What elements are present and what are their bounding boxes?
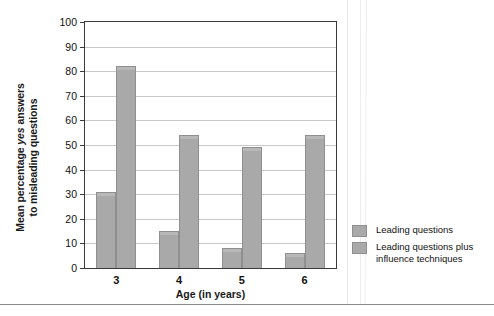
legend-label-line-1: Leading questions plus <box>376 241 473 252</box>
y-axis-tick <box>80 170 85 171</box>
x-axis-tick-label: 6 <box>302 274 308 286</box>
bar <box>285 253 305 268</box>
x-axis-tick-label: 5 <box>239 274 245 286</box>
legend-item: Leading questions <box>352 224 490 237</box>
y-axis-tick-label: 40 <box>65 164 77 176</box>
x-axis-title: Age (in years) <box>84 288 337 300</box>
bar <box>222 248 242 268</box>
y-axis-title-line-2: to misleading questions <box>26 99 38 217</box>
x-axis-tick-label: 3 <box>113 274 119 286</box>
page-divider-rule <box>0 304 494 305</box>
y-axis-tick <box>80 22 85 23</box>
y-axis-tick <box>80 120 85 121</box>
y-axis-tick-label: 70 <box>65 90 77 102</box>
y-axis-tick <box>80 243 85 244</box>
bar <box>179 135 199 268</box>
plot-area: 0102030405060708090100 3456 <box>84 21 337 269</box>
bar <box>159 231 179 268</box>
gridline <box>85 47 336 48</box>
y-axis-tick-label: 100 <box>59 16 77 28</box>
y-axis-tick <box>80 96 85 97</box>
y-axis-tick <box>80 145 85 146</box>
legend: Leading questions Leading questions plus… <box>352 224 490 268</box>
y-axis-tick-label: 0 <box>71 262 77 274</box>
y-axis-title: Mean percentage yes answers to misleadin… <box>14 58 39 258</box>
y-axis-tick <box>80 194 85 195</box>
bar <box>242 147 262 268</box>
y-axis-tick <box>80 219 85 220</box>
bar <box>116 66 136 268</box>
legend-swatch-leading-questions-plus <box>352 242 367 254</box>
y-axis-title-part-1: Mean percentage <box>14 145 26 232</box>
bar <box>305 135 325 268</box>
y-axis-tick-label: 50 <box>65 139 77 151</box>
chart-figure: Mean percentage yes answers to misleadin… <box>0 0 494 316</box>
x-axis-tick-label: 4 <box>176 274 182 286</box>
legend-swatch-leading-questions <box>352 225 367 237</box>
y-axis-title-part-2: answers <box>14 83 26 127</box>
y-axis-tick-label: 30 <box>65 188 77 200</box>
y-axis-tick-label: 90 <box>65 41 77 53</box>
y-axis-tick <box>80 47 85 48</box>
y-axis-tick <box>80 268 85 269</box>
legend-label: Leading questions <box>376 224 453 236</box>
y-axis-title-italic-word: yes <box>14 127 26 144</box>
y-axis-tick-label: 20 <box>65 213 77 225</box>
legend-label-line-2: influence techniques <box>376 253 463 264</box>
y-axis-tick-label: 80 <box>65 65 77 77</box>
scan-artifact-line <box>347 0 348 305</box>
y-axis-tick-label: 10 <box>65 237 77 249</box>
legend-label: Leading questions plusinfluence techniqu… <box>376 241 473 264</box>
legend-item: Leading questions plusinfluence techniqu… <box>352 241 490 264</box>
bar <box>96 192 116 268</box>
y-axis-tick-label: 60 <box>65 114 77 126</box>
y-axis-tick <box>80 71 85 72</box>
